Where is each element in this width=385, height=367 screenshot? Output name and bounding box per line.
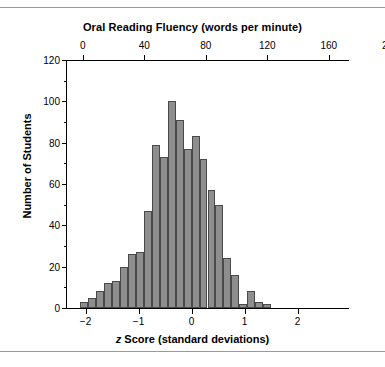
y-tick-label-20: 20 xyxy=(49,261,60,272)
histogram-bar xyxy=(160,157,168,308)
x-tick-bottom-2 xyxy=(192,309,193,314)
y-tick-label-80: 80 xyxy=(49,137,60,148)
histogram-bar xyxy=(136,252,144,308)
x-tick-label-bottom-3: 1 xyxy=(242,316,248,327)
histogram-bar xyxy=(152,145,160,308)
histogram-bar xyxy=(176,120,184,308)
x-tick-label-bottom-2: 0 xyxy=(189,316,195,327)
x-tick-label-bottom-4: 2 xyxy=(295,316,301,327)
x-axis-title-rest: Score (standard deviations) xyxy=(121,333,269,345)
y-axis-title: Number of Students xyxy=(21,76,33,256)
histogram-bar xyxy=(239,304,247,308)
histogram-bars xyxy=(67,60,348,308)
y-tick-label-120: 120 xyxy=(43,55,60,66)
x-axis-line xyxy=(66,308,349,309)
x-tick-label-top-3: 120 xyxy=(259,40,276,51)
histogram-bar xyxy=(255,302,263,308)
histogram-bar xyxy=(192,136,200,308)
x-tick-bottom-3 xyxy=(245,309,246,314)
histogram-bar xyxy=(223,258,231,308)
histogram-bar xyxy=(128,254,136,308)
plot-area: 020406080100120 −2−1012 0408012016020024… xyxy=(67,60,348,308)
x-tick-bottom-0 xyxy=(86,309,87,314)
histogram-bar xyxy=(80,302,88,308)
figure-container: Oral Reading Fluency (words per minute) … xyxy=(0,0,385,367)
y-tick-0 xyxy=(62,308,67,309)
bottom-divider-rule xyxy=(0,351,385,352)
x-tick-bottom-1 xyxy=(139,309,140,314)
x-tick-label-bottom-0: −2 xyxy=(80,316,91,327)
x-tick-label-top-2: 80 xyxy=(200,40,211,51)
x-tick-bottom-4 xyxy=(298,309,299,314)
histogram-bar xyxy=(168,101,176,308)
histogram-bar xyxy=(231,275,239,308)
x-tick-label-top-4: 160 xyxy=(320,40,337,51)
y-tick-label-40: 40 xyxy=(49,220,60,231)
x-tick-label-top-0: 0 xyxy=(80,40,86,51)
histogram-bar xyxy=(120,267,128,308)
top-divider-rule xyxy=(0,7,385,8)
histogram-bar xyxy=(112,281,120,308)
y-tick-label-0: 0 xyxy=(54,303,60,314)
histogram-bar xyxy=(96,291,104,308)
histogram-bar xyxy=(184,149,192,308)
x-tick-label-bottom-1: −1 xyxy=(133,316,144,327)
histogram-bar xyxy=(104,283,112,308)
histogram-bar xyxy=(88,298,96,308)
y-tick-label-60: 60 xyxy=(49,179,60,190)
histogram-bar xyxy=(200,159,208,308)
histogram-bar xyxy=(247,291,255,308)
histogram-bar xyxy=(215,205,223,308)
x-axis-title: z Score (standard deviations) xyxy=(0,333,385,345)
histogram-bar xyxy=(208,190,216,308)
top-axis-title: Oral Reading Fluency (words per minute) xyxy=(0,21,385,33)
x-tick-label-top-1: 40 xyxy=(139,40,150,51)
histogram-bar xyxy=(263,304,271,308)
histogram-bar xyxy=(144,211,152,308)
y-tick-label-100: 100 xyxy=(43,96,60,107)
